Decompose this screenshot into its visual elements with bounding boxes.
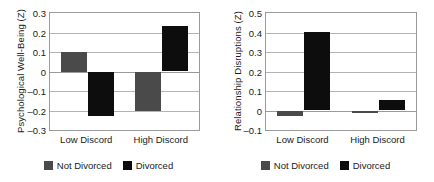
y-axis-tick-label: 0.5 [249, 8, 262, 19]
y-axis-tick-label: 0.1 [249, 86, 262, 97]
gridline [266, 91, 416, 92]
bar [304, 32, 330, 111]
legend-label-divorced: Divorced [136, 160, 174, 171]
y-axis-tick-label: –0.1 [244, 125, 263, 136]
two-panel-bar-chart-figure: Psychological Well-Being (Z) 0.30.20.10–… [0, 0, 434, 182]
legend-entry-divorced-left: Divorced [123, 160, 174, 171]
zero-line [50, 72, 199, 73]
y-axis-tick-label: 0.4 [249, 27, 262, 38]
bar [277, 111, 303, 117]
x-axis-tick-label: High Discord [121, 134, 201, 145]
legend-right: Not Divorced Divorced [217, 160, 434, 171]
x-axis-tick-label: Low Discord [263, 134, 343, 145]
x-axis-tick-label: Low Discord [46, 134, 126, 145]
bar [352, 111, 378, 113]
gridline [266, 52, 416, 53]
legend-label-not-divorced: Not Divorced [274, 160, 329, 171]
y-axis-tick-label: 0 [257, 105, 262, 116]
x-axis-tick-label: High Discord [338, 134, 418, 145]
gridline [50, 111, 199, 112]
legend-label-divorced: Divorced [353, 160, 391, 171]
panel-psychological-well-being: Psychological Well-Being (Z) 0.30.20.10–… [0, 0, 217, 182]
legend-left: Not Divorced Divorced [0, 160, 217, 171]
gridline [266, 33, 416, 34]
legend-entry-not-divorced-left: Not Divorced [44, 160, 112, 171]
gridline [266, 72, 416, 73]
y-axis-tick-label: –0.1 [28, 86, 47, 97]
bar [162, 26, 188, 72]
gridline [50, 91, 199, 92]
y-axis-tick-label: –0.3 [28, 125, 47, 136]
y-axis-title-right: Relationship Disruptions (Z) [231, 2, 245, 140]
legend-entry-divorced-right: Divorced [340, 160, 391, 171]
y-axis-tick-label: 0.3 [249, 47, 262, 58]
bar [61, 52, 87, 72]
plot-area-right: 0.50.40.30.20.10–0.1 [265, 12, 417, 131]
legend-swatch-not-divorced [44, 161, 53, 170]
y-axis-tick-label: 0.3 [33, 8, 46, 19]
y-axis-tick-label: 0.2 [33, 27, 46, 38]
legend-swatch-not-divorced [261, 161, 270, 170]
y-axis-title-left: Psychological Well-Being (Z) [14, 2, 28, 140]
y-axis-tick-label: 0 [41, 66, 46, 77]
bar [88, 72, 114, 117]
legend-entry-not-divorced-right: Not Divorced [261, 160, 329, 171]
bar [379, 100, 405, 111]
legend-swatch-divorced [340, 161, 349, 170]
y-axis-tick-label: 0.1 [33, 47, 46, 58]
y-axis-tick-label: –0.2 [28, 105, 47, 116]
bar [135, 72, 161, 111]
legend-swatch-divorced [123, 161, 132, 170]
y-axis-tick-label: 0.2 [249, 66, 262, 77]
legend-label-not-divorced: Not Divorced [57, 160, 112, 171]
panel-relationship-disruptions: Relationship Disruptions (Z) 0.50.40.30.… [217, 0, 434, 182]
plot-area-left: 0.30.20.10–0.1–0.2–0.3 [49, 12, 200, 131]
